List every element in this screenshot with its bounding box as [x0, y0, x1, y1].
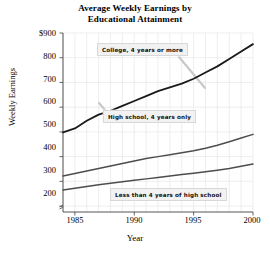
y-tick-label-600: 600 — [12, 97, 56, 106]
y-tick-label-400: 400 — [12, 143, 56, 152]
x-tick-label-1995: 1995 — [173, 216, 213, 225]
annotation-less-than-high-school: Less than 4 years of high school — [110, 188, 227, 201]
chart-title-line-1: Average Weekly Earnings by — [78, 3, 192, 13]
y-tick-label-300: 300 — [12, 166, 56, 175]
annotation-college: College, 4 years or more — [97, 43, 188, 56]
x-tick-label-1990: 1990 — [114, 216, 154, 225]
y-tick-label-500: 500 — [12, 120, 56, 129]
x-tick-label-1985: 1985 — [55, 216, 95, 225]
annotation-high-school: High school, 4 years only — [103, 110, 196, 123]
y-tick-label-800: 800 — [12, 52, 56, 61]
y-tick-label-700: 700 — [12, 75, 56, 84]
y-tick-label-200: 200 — [12, 189, 56, 198]
chart-title: Average Weekly Earnings by Educational A… — [0, 3, 270, 24]
x-tick-label-2000: 2000 — [232, 216, 270, 225]
chart-title-line-2: Educational Attainment — [0, 14, 270, 25]
x-axis-title: Year — [0, 233, 270, 243]
y-axis-title: Weekly Earnings — [7, 47, 17, 147]
y-tick-label-900: $900 — [12, 29, 56, 38]
chart-container: Average Weekly Earnings by Educational A… — [0, 0, 270, 260]
callout-leader-lines — [99, 57, 205, 117]
